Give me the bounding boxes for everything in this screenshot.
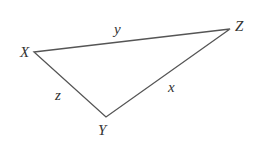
- side-label-x: x: [167, 79, 175, 95]
- vertex-label-x: X: [19, 44, 30, 60]
- vertex-label-z: Z: [235, 18, 244, 34]
- side-label-z: z: [54, 87, 61, 103]
- side-label-y: y: [112, 21, 121, 37]
- triangle-diagram: X Z Y y z x: [0, 0, 266, 147]
- triangle-xyz: [34, 29, 230, 117]
- vertex-label-y: Y: [98, 122, 108, 138]
